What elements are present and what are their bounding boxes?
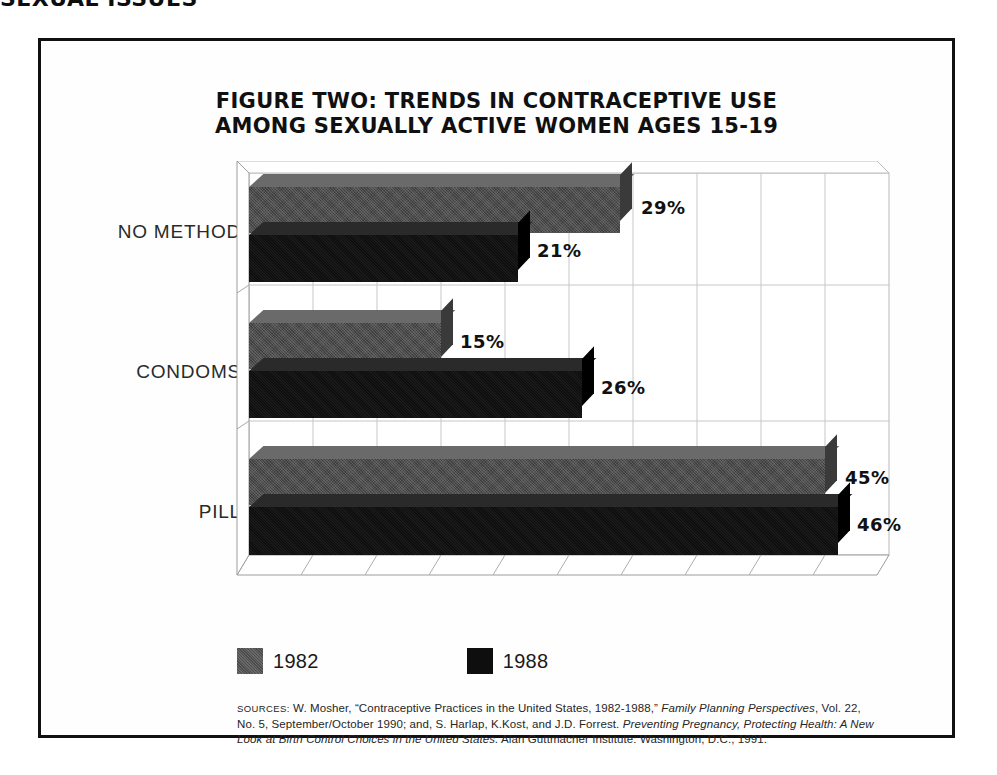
- chart-legend: 1982 1988: [237, 648, 548, 674]
- bar-pill-1988: [249, 507, 838, 555]
- figure-title: FIGURE TWO: TRENDS IN CONTRACEPTIVE USE …: [41, 89, 952, 139]
- bar-front-face: [249, 507, 838, 555]
- chart-plot-area: 29% 21% 15% 26%: [209, 161, 909, 581]
- figure-title-line-1: FIGURE TWO: TRENDS IN CONTRACEPTIVE USE: [41, 89, 952, 114]
- bar-top-face: [249, 494, 852, 507]
- figure-title-line-2: AMONG SEXUALLY ACTIVE WOMEN AGES 15-19: [41, 114, 952, 139]
- bar-value-condoms-1982: 15%: [460, 331, 505, 352]
- bar-no-method-1988: [249, 235, 518, 282]
- page-running-header: SEXUAL ISSUES: [0, 0, 198, 11]
- bar-top-face: [249, 446, 839, 459]
- bar-value-condoms-1988: 26%: [601, 377, 646, 398]
- legend-swatch-icon-1988: [467, 648, 493, 674]
- legend-item-1988: 1988: [467, 648, 549, 674]
- bar-condoms-1988: [249, 371, 582, 418]
- sources-text-3: Alan Guttmacher Institute: Washington, D…: [498, 733, 767, 745]
- bar-value-pill-1982: 45%: [845, 467, 890, 488]
- bar-value-no-method-1988: 21%: [537, 240, 582, 261]
- chart-plot-wrapper: NO METHOD CONDOMS PILL: [41, 161, 952, 581]
- bar-front-face: [249, 371, 582, 418]
- bar-value-no-method-1982: 29%: [641, 197, 686, 218]
- figure-frame: FIGURE TWO: TRENDS IN CONTRACEPTIVE USE …: [38, 38, 955, 738]
- legend-label-1988: 1988: [503, 650, 549, 673]
- bar-top-face: [249, 174, 634, 187]
- figure-sources-note: SOURCES: W. Mosher, “Contraceptive Pract…: [237, 701, 877, 748]
- bar-top-face: [249, 222, 532, 235]
- bar-top-face: [249, 358, 596, 371]
- legend-label-1982: 1982: [273, 650, 319, 673]
- sources-italic-1: Family Planning Perspectives: [661, 702, 815, 714]
- legend-swatch-icon-1982: [237, 648, 263, 674]
- sources-text-1: W. Mosher, “Contraceptive Practices in t…: [290, 702, 661, 714]
- bar-front-face: [249, 235, 518, 282]
- bar-value-pill-1988: 46%: [857, 514, 902, 535]
- sources-lead-label: SOURCES:: [237, 703, 290, 714]
- bar-top-face: [249, 310, 455, 323]
- legend-item-1982: 1982: [237, 648, 319, 674]
